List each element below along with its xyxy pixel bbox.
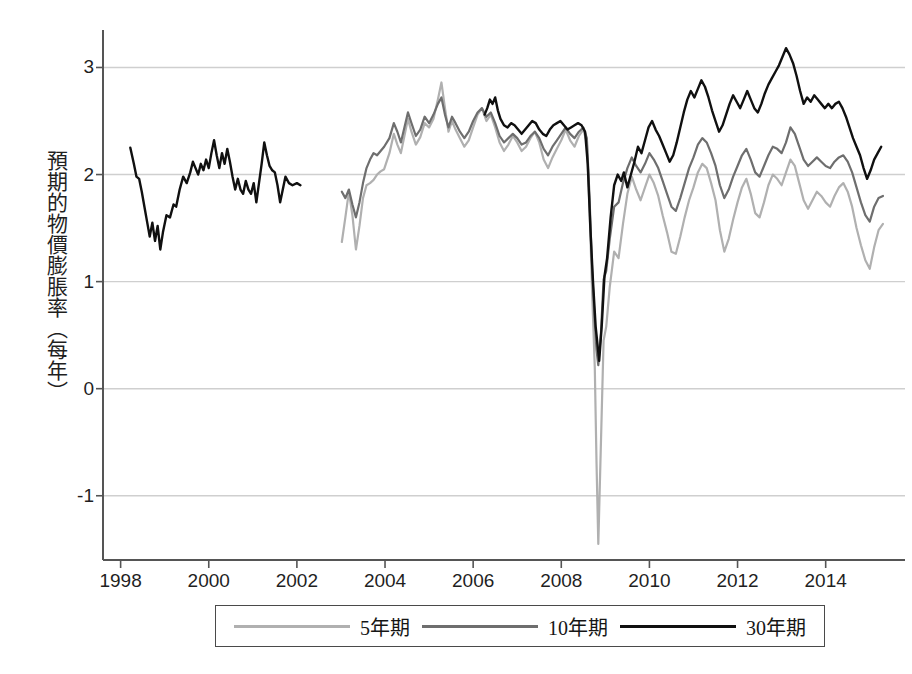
series-line-30年期 bbox=[130, 140, 300, 249]
y-tick-label: 2 bbox=[62, 164, 94, 186]
y-tick-label: 1 bbox=[62, 271, 94, 293]
axis-lines bbox=[103, 30, 905, 560]
series-line-30年期 bbox=[485, 48, 882, 361]
x-tick-label: 1998 bbox=[99, 570, 141, 592]
legend-entry: 5年期 bbox=[234, 612, 410, 641]
x-tick-label: 2002 bbox=[276, 570, 318, 592]
x-tick-label: 2006 bbox=[452, 570, 494, 592]
x-tick-label: 2008 bbox=[540, 570, 582, 592]
gridlines bbox=[103, 67, 905, 495]
legend-line-swatch bbox=[234, 625, 350, 628]
x-tick-label: 2000 bbox=[188, 570, 230, 592]
legend-line-swatch bbox=[422, 625, 538, 628]
tick-marks bbox=[96, 67, 826, 568]
legend-label: 5年期 bbox=[360, 612, 410, 641]
x-tick-label: 2004 bbox=[364, 570, 406, 592]
y-tick-label: 0 bbox=[62, 378, 94, 400]
legend-entry: 10年期 bbox=[422, 612, 608, 641]
legend-label: 10年期 bbox=[548, 612, 608, 641]
legend-label: 30年期 bbox=[746, 612, 806, 641]
series-lines bbox=[130, 48, 883, 544]
series-line-10年期 bbox=[342, 97, 883, 365]
x-tick-label: 2010 bbox=[628, 570, 670, 592]
legend-entry: 30年期 bbox=[620, 612, 806, 641]
y-tick-label: 3 bbox=[62, 56, 94, 78]
legend: 5年期10年期30年期 bbox=[215, 605, 825, 647]
inflation-expectations-chart: 預期的物價膨脹率（每年） -10123 19982000200220042006… bbox=[0, 0, 912, 674]
x-tick-label: 2014 bbox=[805, 570, 847, 592]
y-tick-label: -1 bbox=[62, 485, 94, 507]
x-tick-label: 2012 bbox=[716, 570, 758, 592]
legend-line-swatch bbox=[620, 625, 736, 628]
